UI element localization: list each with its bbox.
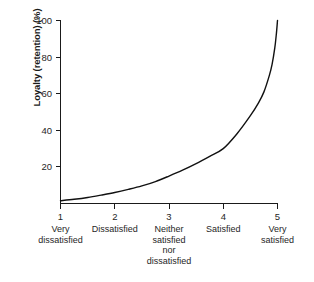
loyalty-curve bbox=[61, 21, 278, 201]
y-tick-label-20: 20 bbox=[18, 161, 52, 172]
y-tick-label-60: 60 bbox=[18, 88, 52, 99]
x-tick-label-2: 2 bbox=[95, 211, 135, 222]
x-category-label-5: Very satisfied bbox=[240, 224, 314, 245]
y-tick-label-100: 100 bbox=[18, 15, 52, 26]
y-tick-label-80: 80 bbox=[18, 52, 52, 63]
x-category-line: dissatisfied bbox=[131, 256, 207, 267]
x-tick-label-3: 3 bbox=[149, 211, 189, 222]
x-category-line: satisfied bbox=[240, 235, 314, 246]
x-tick-label-4: 4 bbox=[203, 211, 243, 222]
x-category-line: satisfied bbox=[131, 235, 207, 246]
x-category-line: nor bbox=[131, 245, 207, 256]
x-category-line: Very bbox=[240, 224, 314, 235]
chart-figure: Loyalty (retention) (%) 100 80 60 40 20 … bbox=[0, 0, 313, 282]
y-tick-label-40: 40 bbox=[18, 125, 52, 136]
x-category-line: dissatisfied bbox=[23, 235, 99, 246]
y-axis-ticks bbox=[56, 21, 61, 167]
x-axis-ticks bbox=[61, 204, 278, 209]
x-tick-label-5: 5 bbox=[258, 211, 298, 222]
x-tick-label-1: 1 bbox=[41, 211, 81, 222]
